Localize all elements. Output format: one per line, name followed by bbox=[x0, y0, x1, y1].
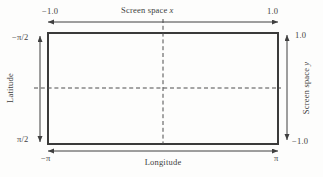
screen-space-y-title-var: y bbox=[301, 62, 311, 66]
screen-space-x-title-text: Screen space bbox=[121, 5, 168, 15]
screen-space-y-min-label: −1.0 bbox=[292, 137, 308, 146]
screen-space-x-max-label: 1.0 bbox=[267, 7, 278, 16]
screen-space-y-title-text: Screen space bbox=[301, 68, 311, 115]
latlong-screen-space-diagram: −1.0 Screen spacex 1.0 −π/2 π/2 Latitude… bbox=[0, 0, 323, 177]
longitude-axis-title: Longitude bbox=[145, 158, 182, 167]
screen-space-y-max-label: 1.0 bbox=[295, 31, 306, 40]
screen-space-x-min-label: −1.0 bbox=[42, 7, 58, 16]
screen-space-y-axis-title: Screen spacey bbox=[302, 62, 311, 115]
screen-space-x-title-var: x bbox=[170, 5, 174, 15]
longitude-min-label: −π bbox=[41, 154, 51, 163]
latitude-axis-title: Latitude bbox=[6, 73, 15, 103]
latitude-min-label: −π/2 bbox=[12, 33, 29, 42]
longitude-max-label: π bbox=[274, 154, 279, 163]
screen-space-x-axis-title: Screen spacex bbox=[121, 6, 174, 15]
latitude-max-label: π/2 bbox=[17, 135, 29, 144]
diagram-lines bbox=[0, 0, 323, 177]
